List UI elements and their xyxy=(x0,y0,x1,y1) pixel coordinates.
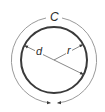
circumference-label: C xyxy=(49,11,60,23)
radius-label: r xyxy=(66,45,72,56)
circumference-arc xyxy=(11,18,96,103)
diameter-label: d xyxy=(35,46,43,57)
